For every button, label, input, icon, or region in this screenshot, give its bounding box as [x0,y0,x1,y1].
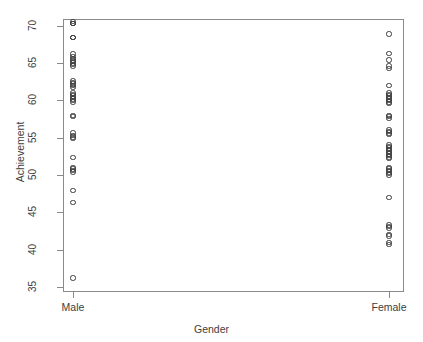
y-axis-tick [57,287,63,288]
data-point [386,57,391,62]
x-axis-tick-label-female: Female [349,301,423,313]
data-point [70,200,75,205]
data-point [386,172,391,177]
data-point [386,233,391,238]
data-point [70,169,75,174]
scatter-plot: 3540455055606570 MaleFemale Achievement … [0,0,423,342]
y-axis-tick-label: 65 [27,43,38,83]
plot-area-frame [63,19,404,292]
data-point [386,51,391,56]
data-point [70,35,75,40]
data-point [70,21,75,26]
y-axis-tick [57,212,63,213]
y-axis-tick-label: 50 [27,154,38,194]
data-point [386,195,391,200]
data-point [386,242,391,247]
x-axis-tick [73,292,74,298]
x-axis-title: Gender [0,323,423,335]
y-axis-tick-label: 60 [27,80,38,120]
y-axis-tick [57,138,63,139]
data-point [386,101,391,106]
data-point [70,63,75,68]
y-axis-title: Achievement [14,72,26,232]
data-point [386,83,391,88]
y-axis-tick-label: 40 [27,229,38,269]
data-point [386,156,391,161]
y-axis-tick [57,63,63,64]
data-point [386,66,391,71]
data-point [70,136,75,141]
data-point [386,132,391,137]
y-axis-tick [57,26,63,27]
x-axis-tick-label-male: Male [33,301,113,313]
data-point [70,275,75,280]
y-axis-tick [57,100,63,101]
x-axis-tick [389,292,390,298]
data-point [386,225,391,230]
y-axis-tick [57,175,63,176]
y-axis-tick-label: 55 [27,117,38,157]
y-axis-tick-label: 45 [27,192,38,232]
data-point [386,116,391,121]
data-point [386,31,391,36]
y-axis-tick [57,250,63,251]
data-point [70,188,75,193]
y-axis-tick-label: 70 [27,5,38,45]
data-point [70,99,75,104]
